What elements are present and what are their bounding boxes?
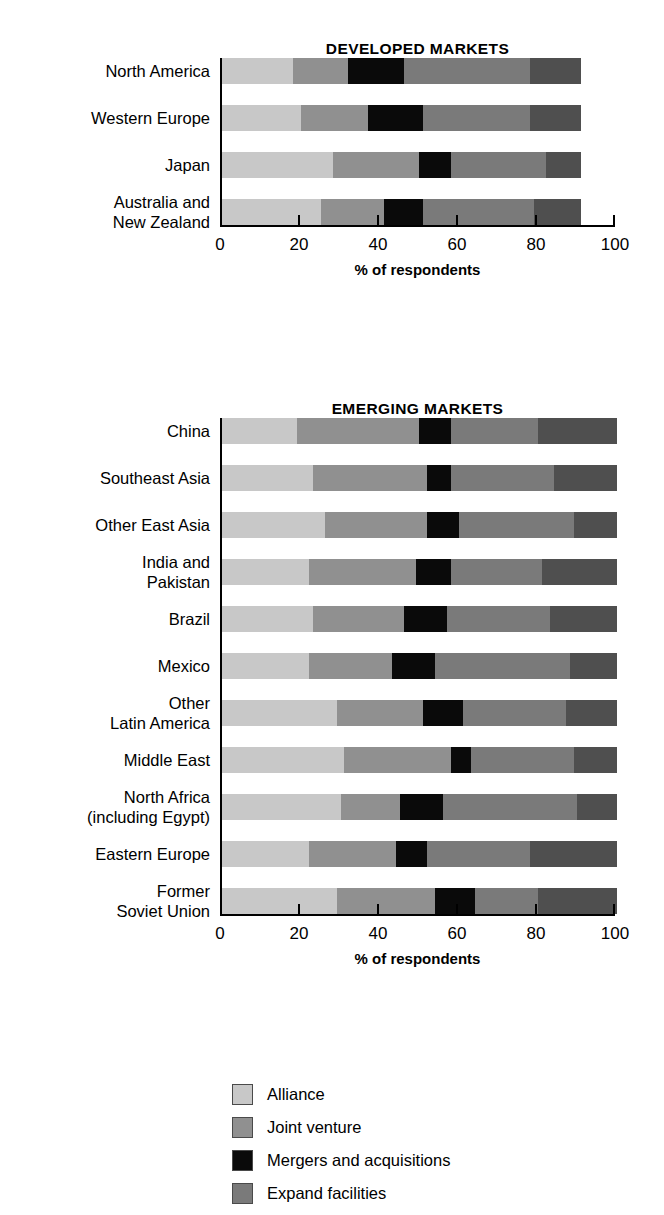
bar-segment-expand-facilities: [463, 700, 566, 726]
bar-segment-joint-venture: [325, 512, 428, 538]
x-axis-emerging: 020406080100% of respondents: [220, 914, 615, 958]
bar-segment-expand-facilities: [423, 199, 534, 225]
bar-segment-alliance: [222, 105, 301, 131]
bar-segment-other: [542, 559, 617, 585]
legend-item: Mergers and acquisitions: [232, 1144, 652, 1177]
category-label: Brazil: [0, 609, 210, 629]
bar-segment-other: [530, 841, 617, 867]
category-label: China: [0, 421, 210, 441]
bar-segment-joint-venture: [344, 747, 451, 773]
bar-row: Japan: [222, 152, 617, 178]
bar-segment-alliance: [222, 606, 313, 632]
bar-segment-alliance: [222, 199, 321, 225]
bar-segment-expand-facilities: [435, 653, 569, 679]
bar-segment-joint-venture: [297, 418, 419, 444]
bar-segment-mergers-and-acquisitions: [419, 418, 451, 444]
bar-segment-other: [566, 700, 617, 726]
chart-legend: AllianceJoint ventureMergers and acquisi…: [232, 1078, 652, 1210]
bar-segment-alliance: [222, 559, 309, 585]
bar-segment-other: [530, 105, 581, 131]
bar-segment-joint-venture: [309, 559, 416, 585]
stacked-bar: [222, 152, 581, 178]
bar-row: Mexico: [222, 653, 617, 679]
bar-segment-joint-venture: [333, 152, 420, 178]
axis-line: [220, 225, 615, 227]
bar-segment-other: [574, 512, 617, 538]
bar-segment-expand-facilities: [447, 606, 550, 632]
legend-item: Expand facilities: [232, 1177, 652, 1210]
bar-segment-joint-venture: [337, 700, 424, 726]
bar-segment-other: [574, 747, 617, 773]
stacked-bar: [222, 512, 617, 538]
category-label: Western Europe: [0, 108, 210, 128]
bar-row: Australia and New Zealand: [222, 199, 617, 225]
legend-swatch-icon: [232, 1084, 253, 1105]
stacked-bar: [222, 700, 617, 726]
axis-tick: [377, 904, 379, 914]
axis-tick-label: 80: [527, 235, 546, 255]
axis-cap-right: [613, 215, 615, 227]
bar-segment-mergers-and-acquisitions: [423, 700, 463, 726]
bar-row: North Africa (including Egypt): [222, 794, 617, 820]
legend-label: Expand facilities: [267, 1184, 386, 1203]
bar-segment-other: [570, 653, 617, 679]
axis-cap-left: [220, 904, 222, 916]
bar-segment-alliance: [222, 794, 341, 820]
category-label: Former Soviet Union: [0, 881, 210, 921]
axis-tick-label: 40: [369, 924, 388, 944]
axis-tick: [377, 215, 379, 225]
bar-segment-mergers-and-acquisitions: [416, 559, 452, 585]
bar-segment-mergers-and-acquisitions: [451, 747, 471, 773]
bar-segment-alliance: [222, 653, 309, 679]
bar-row: China: [222, 418, 617, 444]
bar-segment-joint-venture: [313, 606, 404, 632]
axis-tick-label: 0: [215, 924, 224, 944]
axis-tick-label: 100: [601, 235, 629, 255]
bar-segment-joint-venture: [301, 105, 368, 131]
legend-swatch-icon: [232, 1117, 253, 1138]
stacked-bar: [222, 653, 617, 679]
category-label: Japan: [0, 155, 210, 175]
legend-label: Mergers and acquisitions: [267, 1151, 450, 1170]
chart-page: DEVELOPED MARKETS North AmericaWestern E…: [0, 0, 664, 1215]
bar-row: Eastern Europe: [222, 841, 617, 867]
axis-tick-label: 0: [215, 235, 224, 255]
category-label: Mexico: [0, 656, 210, 676]
legend-label: Joint venture: [267, 1118, 361, 1137]
stacked-bar: [222, 747, 617, 773]
bar-segment-expand-facilities: [471, 747, 574, 773]
axis-title: % of respondents: [220, 950, 615, 967]
stacked-bar: [222, 559, 617, 585]
plot-area-developed: North AmericaWestern EuropeJapanAustrali…: [220, 58, 617, 225]
axis-cap-left: [220, 215, 222, 227]
axis-tick: [298, 904, 300, 914]
bar-segment-mergers-and-acquisitions: [427, 512, 459, 538]
panel-title-developed: DEVELOPED MARKETS: [220, 40, 615, 58]
bar-row: India and Pakistan: [222, 559, 617, 585]
bar-segment-expand-facilities: [475, 888, 538, 914]
stacked-bar: [222, 794, 617, 820]
bar-row: North America: [222, 58, 617, 84]
bar-segment-joint-venture: [309, 653, 392, 679]
bar-segment-alliance: [222, 700, 337, 726]
bar-segment-alliance: [222, 152, 333, 178]
bar-segment-joint-venture: [313, 465, 428, 491]
panel-developed-markets: DEVELOPED MARKETS North AmericaWestern E…: [0, 40, 664, 269]
stacked-bar: [222, 418, 617, 444]
axis-tick-label: 60: [448, 235, 467, 255]
bar-row: Southeast Asia: [222, 465, 617, 491]
bar-segment-expand-facilities: [404, 58, 530, 84]
bar-segment-expand-facilities: [451, 418, 538, 444]
axis-tick-label: 80: [527, 924, 546, 944]
bar-segment-alliance: [222, 418, 297, 444]
axis-line: [220, 914, 615, 916]
stacked-bar: [222, 58, 581, 84]
category-label: Eastern Europe: [0, 844, 210, 864]
bar-segment-joint-venture: [337, 888, 436, 914]
plot-area-emerging: ChinaSoutheast AsiaOther East AsiaIndia …: [220, 418, 617, 914]
legend-label: Alliance: [267, 1085, 325, 1104]
bar-row: Western Europe: [222, 105, 617, 131]
axis-cap-right: [613, 904, 615, 916]
bar-segment-expand-facilities: [459, 512, 574, 538]
category-label: North America: [0, 61, 210, 81]
